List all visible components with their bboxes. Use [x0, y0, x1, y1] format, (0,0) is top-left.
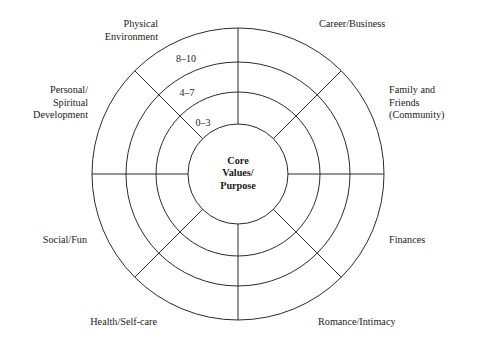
spoke-southwest	[135, 209, 203, 277]
ring-label-8-10: 8–10	[176, 53, 196, 64]
ring-label-0-3: 0–3	[196, 117, 211, 128]
segment-label-social-fun: Social/Fun	[43, 234, 87, 247]
segment-label-family-and-friends: Family and Friends (Community)	[389, 84, 444, 122]
segment-label-health-self-care: Health/Self-care	[90, 316, 157, 329]
spoke-southeast	[273, 209, 341, 277]
core-values-label: Core Values/ Purpose	[220, 155, 256, 192]
segment-label-finances: Finances	[389, 234, 425, 247]
spoke-northeast	[273, 71, 341, 139]
segment-label-personal-spiritual-development: Personal/ Spiritual Development	[33, 84, 88, 122]
ring-label-4-7: 4–7	[180, 87, 195, 98]
segment-label-romance-intimacy: Romance/Intimacy	[318, 316, 396, 329]
segment-label-physical-environment: Physical Environment	[105, 18, 158, 43]
wheel-of-life-diagram: Core Values/ Purpose 8–10 4–7 0–3 Career…	[0, 0, 481, 357]
spoke-northwest	[135, 71, 203, 139]
segment-label-career-business: Career/Business	[319, 18, 385, 31]
